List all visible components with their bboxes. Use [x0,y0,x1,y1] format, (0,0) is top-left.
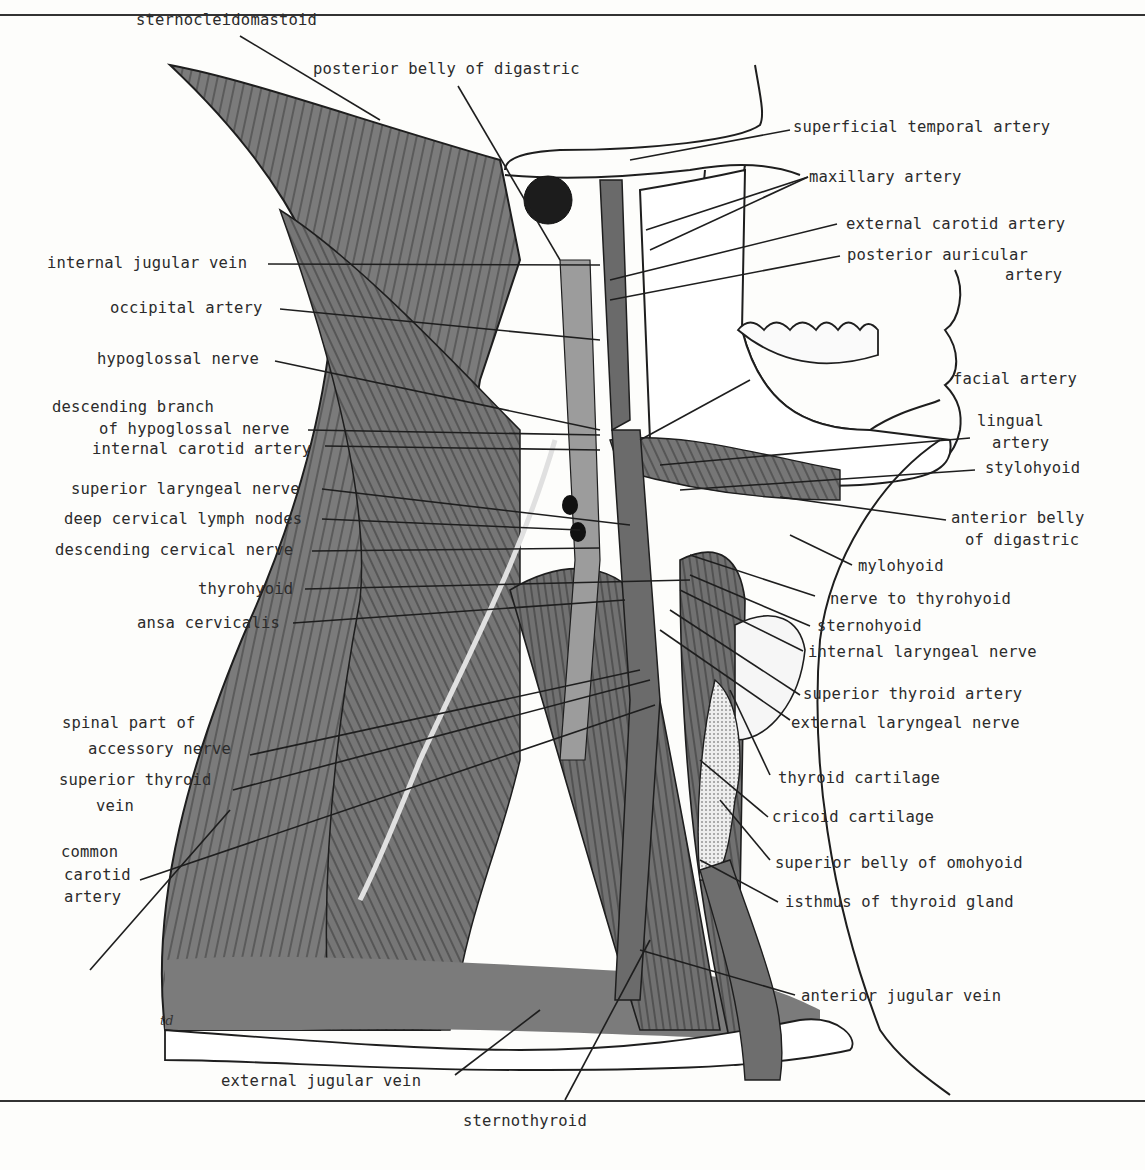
label-cricoid-cartilage: cricoid cartilage [772,808,934,827]
artist-signature: td [160,1013,174,1028]
label-lingual-2: artery [992,434,1049,453]
label-common-carotid-3: artery [64,888,121,907]
label-sternothyroid: sternothyroid [463,1112,587,1131]
label-superior-laryngeal-nerve: superior laryngeal nerve [71,480,300,499]
label-spinal-part-1: spinal part of [62,714,195,733]
lymph-node [562,495,578,515]
label-thyrohyoid: thyrohyoid [198,580,293,599]
label-nerve-to-thyrohyoid: nerve to thyrohyoid [830,590,1011,609]
external-carotid-vessel [600,180,630,430]
label-superior-belly-omohyoid: superior belly of omohyoid [775,854,1023,873]
label-sternocleidomastoid: sternocleidomastoid [136,11,317,30]
label-anterior-belly-2: of digastric [965,531,1079,550]
label-external-jugular-vein: external jugular vein [221,1072,421,1091]
label-external-laryngeal-nerve: external laryngeal nerve [791,714,1020,733]
label-posterior-belly-of-digastric: posterior belly of digastric [313,60,580,79]
label-sternohyoid: sternohyoid [817,617,922,636]
label-facial-artery: facial artery [953,370,1077,389]
label-superior-thyroid-artery: superior thyroid artery [803,685,1022,704]
label-occipital-artery: occipital artery [110,299,263,318]
label-descending-branch-1: descending branch [52,398,214,417]
label-internal-carotid-artery: internal carotid artery [92,440,311,459]
label-superior-thyroid-vein-2: vein [96,797,134,816]
label-common-carotid-1: common [61,843,118,862]
teeth [738,323,878,364]
label-internal-laryngeal-nerve: internal laryngeal nerve [808,643,1037,662]
label-posterior-auricular-2: artery [1005,266,1062,285]
label-hypoglossal-nerve: hypoglossal nerve [97,350,259,369]
label-descending-cervical-nerve: descending cervical nerve [55,541,293,560]
label-common-carotid-2: carotid [64,866,131,885]
label-ansa-cervicalis: ansa cervicalis [137,614,280,633]
label-external-carotid-artery: external carotid artery [846,215,1065,234]
label-descending-branch-2: of hypoglossal nerve [99,420,290,439]
label-posterior-auricular-1: posterior auricular [847,246,1028,265]
label-stylohyoid: stylohyoid [985,459,1080,478]
label-deep-cervical-lymph-nodes: deep cervical lymph nodes [64,510,302,529]
label-maxillary-artery: maxillary artery [809,168,962,187]
label-anterior-belly-1: anterior belly [951,509,1084,528]
label-thyroid-cartilage: thyroid cartilage [778,769,940,788]
label-superior-thyroid-vein-1: superior thyroid [59,771,212,790]
label-spinal-part-2: accessory nerve [88,740,231,759]
label-lingual-1: lingual [977,412,1044,431]
label-internal-jugular-vein: internal jugular vein [47,254,247,273]
label-isthmus-thyroid: isthmus of thyroid gland [785,893,1014,912]
mastoid-process [524,176,572,224]
label-anterior-jugular-vein: anterior jugular vein [801,987,1001,1006]
label-mylohyoid: mylohyoid [858,557,944,576]
label-superficial-temporal-artery: superficial temporal artery [793,118,1050,137]
lymph-node [570,522,586,542]
